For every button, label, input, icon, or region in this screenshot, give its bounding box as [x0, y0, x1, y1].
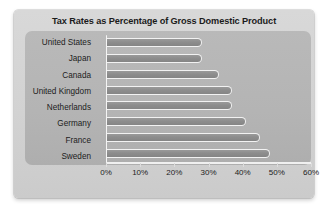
axis-tick [140, 163, 141, 167]
bar [106, 117, 246, 126]
bar-row [106, 116, 311, 127]
axis-tick [209, 163, 210, 167]
value-axis-ticks [106, 163, 311, 167]
axis-tick [277, 163, 278, 167]
bar-row [106, 53, 311, 64]
value-axis-tick-labels: 0%10%20%30%40%50%60% [106, 168, 311, 180]
category-label: France [14, 136, 95, 146]
axis-tick-label: 0% [100, 168, 112, 177]
bar-row [106, 85, 311, 96]
category-label: United States [14, 38, 95, 48]
chart-card: Tax Rates as Percentage of Gross Domesti… [14, 10, 314, 198]
bar-row [106, 132, 311, 143]
bar [106, 149, 270, 158]
axis-tick [106, 163, 107, 167]
value-axis-baseline [106, 35, 108, 163]
chart-figure: Tax Rates as Percentage of Gross Domesti… [0, 0, 329, 217]
category-label: Canada [14, 71, 95, 81]
axis-tick-label: 10% [132, 168, 148, 177]
bar-row [106, 148, 311, 159]
bar-row [106, 100, 311, 111]
chart-title: Tax Rates as Percentage of Gross Domesti… [14, 16, 314, 26]
category-axis-labels: United States Japan Canada United Kingdo… [14, 31, 95, 165]
bar-row [106, 69, 311, 80]
axis-tick [174, 163, 175, 167]
category-label: Sweden [14, 152, 95, 162]
bar [106, 133, 260, 142]
axis-tick-label: 60% [303, 168, 319, 177]
bar [106, 86, 232, 95]
bar [106, 70, 219, 79]
category-label: United Kingdom [14, 87, 95, 97]
axis-tick-label: 50% [269, 168, 285, 177]
bar-row [106, 37, 311, 48]
category-label: Japan [14, 54, 95, 64]
axis-tick-label: 30% [200, 168, 216, 177]
bar [106, 38, 202, 47]
bar [106, 101, 232, 110]
category-label: Germany [14, 119, 95, 129]
bar [106, 54, 202, 63]
axis-tick [243, 163, 244, 167]
axis-tick-label: 40% [235, 168, 251, 177]
axis-tick-label: 20% [166, 168, 182, 177]
axis-tick [311, 163, 312, 167]
category-label: Netherlands [14, 103, 95, 113]
bars-area [106, 35, 311, 161]
